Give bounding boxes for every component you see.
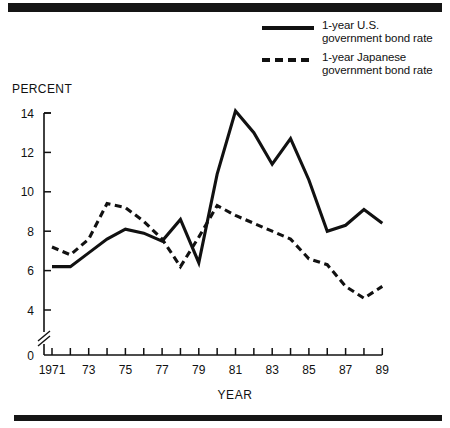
y-axis-break-icon [38, 331, 50, 341]
y-tick-label: 14 [21, 107, 35, 121]
tick-labels-layer: 04681012141971737577798183858789 [21, 107, 390, 378]
x-tick-label: 77 [155, 363, 169, 377]
x-tick-label: 87 [339, 363, 353, 377]
y-tick-label: 8 [27, 225, 34, 239]
series-line-japan [52, 204, 382, 299]
x-tick-label: 85 [302, 363, 316, 377]
y-tick-label: 12 [21, 146, 35, 160]
figure-root: 1-year U.S. government bond rate 1-year … [0, 0, 450, 428]
y-tick-label: 0 [27, 349, 34, 363]
x-tick-label: 79 [192, 363, 206, 377]
chart-plot-area: 04681012141971737577798183858789 [0, 0, 450, 428]
y-tick-label: 10 [21, 185, 35, 199]
x-tick-label: 75 [119, 363, 133, 377]
x-tick-label: 1971 [39, 363, 66, 377]
x-tick-label: 89 [376, 363, 390, 377]
y-tick-label: 4 [27, 304, 34, 318]
y-tick-label: 6 [27, 264, 34, 278]
series-layer [52, 111, 382, 298]
x-tick-label: 83 [266, 363, 280, 377]
x-tick-label: 73 [82, 363, 96, 377]
series-line-us [52, 111, 382, 267]
x-tick-label: 81 [229, 363, 243, 377]
